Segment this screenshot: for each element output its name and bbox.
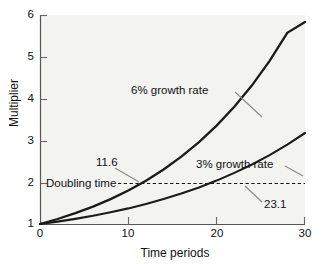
x-tick-label-0: 0 [25, 228, 55, 240]
leader-line-6-percent [235, 92, 262, 117]
series-label-6-percent: 6% growth rate [131, 84, 208, 96]
leader-line-3-percent [285, 166, 303, 176]
series-curve-6-percent [40, 22, 305, 224]
y-tick-label-2: 2 [12, 177, 34, 189]
series-label-3-percent: 3% growth rate [196, 158, 273, 170]
y-tick-marks [41, 16, 48, 184]
y-tick-label-6: 6 [12, 9, 34, 21]
chart-canvas [0, 0, 324, 264]
x-tick-marks [129, 217, 305, 225]
x-axis-title: Time periods [110, 246, 240, 260]
y-axis-title: Multiplier [7, 63, 21, 143]
leader-line-marker-23-1 [245, 186, 262, 202]
x-tick-label-30: 30 [290, 228, 320, 240]
marker-label-11-6: 11.6 [96, 156, 118, 168]
x-tick-label-10: 10 [113, 228, 143, 240]
growth-multiplier-chart: 6 5 4 3 2 1 0 10 20 30 Multiplier Time p… [0, 0, 324, 264]
leader-line-marker-11-6 [115, 168, 139, 182]
marker-label-23-1: 23.1 [264, 198, 286, 210]
doubling-time-label: Doubling time [46, 177, 116, 189]
y-tick-label-5: 5 [12, 51, 34, 63]
x-tick-label-20: 20 [202, 228, 232, 240]
